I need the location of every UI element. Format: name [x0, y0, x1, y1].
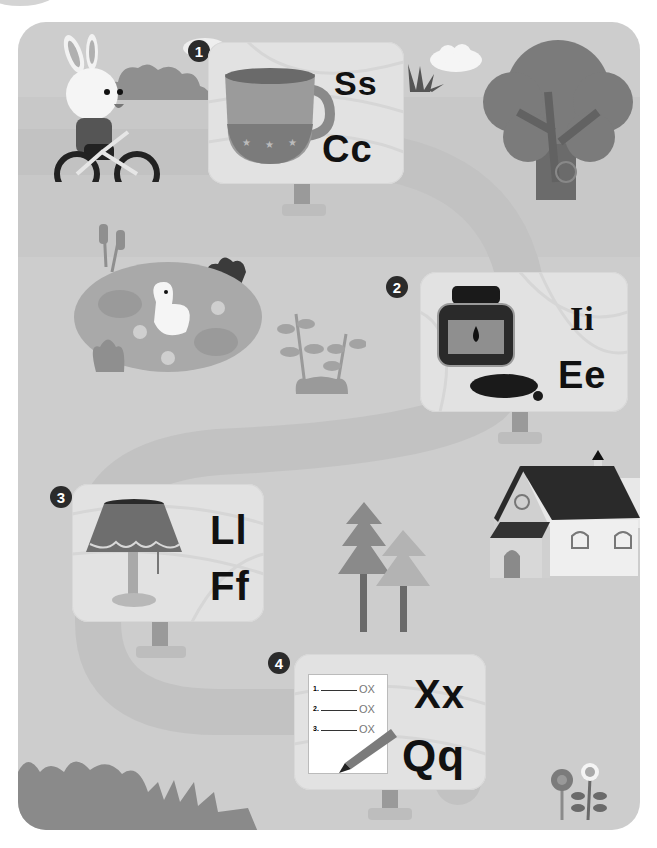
worksheet-frame: 1 ★ ★ ★ Ss Cc — [18, 22, 640, 830]
station-card-1: ★ ★ ★ Ss Cc — [208, 42, 404, 184]
ink-bottle-icon — [434, 286, 554, 406]
sprout-plant-icon — [276, 294, 366, 394]
bush-icon — [18, 752, 258, 830]
station-badge-3: 3 — [50, 486, 72, 508]
grass-base — [136, 646, 186, 658]
station-1-letter-bottom: Cc — [322, 130, 373, 168]
svg-text:★: ★ — [242, 137, 251, 148]
house-icon — [490, 448, 640, 578]
answer-line — [321, 690, 357, 691]
flowers-icon — [548, 762, 608, 822]
station-badge-4: 4 — [268, 652, 290, 674]
svg-text:★: ★ — [265, 139, 274, 150]
station-4-letter-top: Xx — [414, 674, 465, 714]
station-badge-1: 1 — [188, 40, 210, 62]
station-2-letter-bottom: Ee — [558, 356, 606, 394]
rabbit-on-bicycle-icon — [32, 32, 162, 182]
pine-trees-icon — [336, 502, 446, 632]
lamp-icon — [86, 496, 186, 616]
station-badge-2: 2 — [386, 276, 408, 298]
station-4-letter-bottom: Qq — [402, 734, 465, 778]
quiz-mark-1: OX — [359, 683, 375, 695]
quiz-mark-2: OX — [359, 703, 375, 715]
station-3-letter-bottom: Ff — [210, 566, 250, 606]
pond-with-ducks-icon — [68, 222, 268, 372]
station-3-letter-top: Ll — [210, 510, 248, 550]
grass-base — [282, 204, 326, 216]
grass-base — [498, 432, 542, 444]
quiz-line-1: 1. — [313, 685, 319, 692]
quiz-line-2: 2. — [313, 705, 319, 712]
station-1-letter-top: Ss — [334, 66, 378, 100]
station-card-2: Ii Ee — [420, 272, 628, 412]
quiz-sheet-icon: 1. OX 2. OX 3. OX — [308, 674, 388, 774]
station-card-3: Ll Ff — [72, 484, 264, 622]
answer-line — [321, 710, 357, 711]
svg-text:★: ★ — [288, 137, 297, 148]
station-2-letter-top: Ii — [570, 302, 595, 336]
quiz-line-3: 3. — [313, 725, 319, 732]
tree-icon — [478, 32, 638, 200]
decorative-arc — [0, 0, 60, 6]
pencil-icon — [337, 727, 397, 773]
grass-base — [368, 808, 412, 820]
cloud-icon — [428, 44, 484, 74]
station-card-4: 1. OX 2. OX 3. OX Xx Qq — [294, 654, 486, 790]
